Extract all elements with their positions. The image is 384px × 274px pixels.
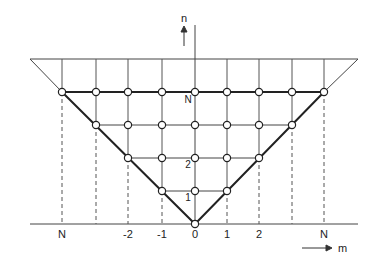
m-tick-label: -1 [157,228,167,240]
n-row-label: 2 [185,159,191,170]
lattice-node [158,121,165,128]
lattice-node [158,187,165,194]
lattice-node [191,88,198,95]
lattice-node [191,154,198,161]
m-tick-label: -2 [123,228,133,240]
lattice-node [158,88,165,95]
grid-rows [62,92,324,191]
lattice-node [124,154,131,161]
lattice-node [255,121,262,128]
lattice-node [288,121,295,128]
lattice-node [58,88,65,95]
lattice-node [191,187,198,194]
m-tick-label: 0 [192,228,198,240]
lattice-diagram: n m N-2-1012N N21 [0,0,384,274]
lattice-nodes [58,88,327,227]
n-axis-label: n [181,12,187,24]
lattice-node [223,121,230,128]
lattice-node [223,187,230,194]
m-arrow-icon [302,245,332,251]
lattice-node [288,88,295,95]
lattice-node [320,88,327,95]
lattice-node [223,154,230,161]
lattice-node [191,121,198,128]
lattice-node [255,154,262,161]
m-tick-label: N [58,228,66,240]
n-row-label: N [184,94,191,105]
trapezoid-outline [30,59,358,92]
lattice-node [191,220,198,227]
lattice-node [124,121,131,128]
lattice-node [92,121,99,128]
n-row-label: 1 [185,192,191,203]
m-tick-label: 2 [256,228,262,240]
lattice-node [124,88,131,95]
m-tick-labels: N-2-1012N [58,228,328,240]
lattice-node [223,88,230,95]
m-axis-label: m [338,242,347,254]
m-tick-label: 1 [224,228,230,240]
lattice-node [158,154,165,161]
grid-verticals [62,59,324,224]
m-tick-label: N [320,228,328,240]
lattice-node [255,88,262,95]
n-arrow-icon [181,26,187,46]
n-row-labels: N21 [184,94,191,203]
lattice-node [92,88,99,95]
